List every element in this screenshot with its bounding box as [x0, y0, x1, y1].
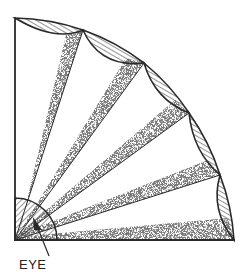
eye-label: EYE	[19, 257, 47, 272]
visual-field-diagram	[0, 0, 245, 278]
lens-2	[83, 30, 144, 64]
lens-3	[144, 63, 189, 113]
eye-icon	[15, 198, 57, 240]
lens-1	[15, 18, 83, 34]
